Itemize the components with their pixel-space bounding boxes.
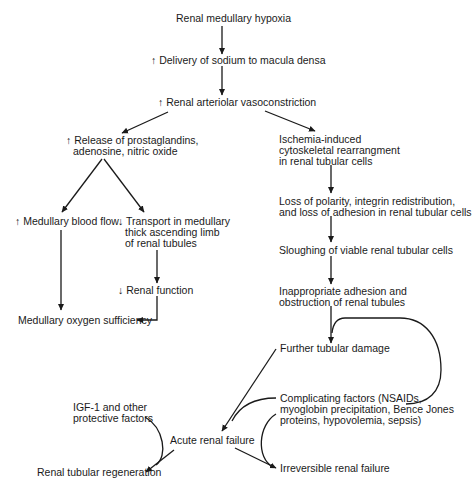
- node-medullary-blood-flow: ↑ Medullary blood flow: [15, 216, 119, 227]
- node-further-tubular-damage: Further tubular damage: [280, 343, 390, 354]
- node-complicating-factors: Complicating factors (NSAIDs, myoglobin …: [280, 393, 454, 426]
- arrow-further-damage-to-acute: [222, 349, 276, 431]
- node-text-line: Renal medullary hypoxia: [176, 13, 291, 24]
- node-text-line: ↑ Medullary blood flow: [15, 216, 119, 227]
- arrow-vasoconstriction-to-ischemia: [265, 111, 315, 131]
- node-text-line: of renal tubules: [118, 238, 230, 249]
- node-renal-function: ↓ Renal function: [118, 285, 193, 296]
- node-text-line: Acute renal failure: [170, 435, 255, 446]
- node-text-line: Renal tubular regeneration: [37, 467, 161, 478]
- node-text-line: Irreversible renal failure: [280, 463, 390, 474]
- arrow-prostaglandins-to-transport: [104, 159, 144, 212]
- node-text-line: ↑ Renal arteriolar vasoconstriction: [158, 97, 316, 108]
- node-text-line: Medullary oxygen sufficiency: [18, 315, 152, 326]
- node-medullary-oxygen-sufficiency: Medullary oxygen sufficiency: [18, 315, 152, 326]
- arrow-igf-to-regeneration: [145, 417, 163, 465]
- node-igf1-protective-factors: IGF-1 and other protective factors: [73, 402, 153, 424]
- arrow-complicating-to-irreversible: [261, 414, 276, 467]
- node-acute-renal-failure: Acute renal failure: [170, 435, 255, 446]
- node-transport-thick-ascending-limb: ↓ Transport in medullary thick ascending…: [118, 216, 230, 249]
- node-text-line: protective factors: [73, 413, 153, 424]
- node-text-line: ↑ Delivery of sodium to macula densa: [151, 55, 326, 66]
- node-text-line: in renal tubular cells: [279, 156, 400, 167]
- node-arteriolar-vasoconstriction: ↑ Renal arteriolar vasoconstriction: [158, 97, 316, 108]
- node-inappropriate-adhesion: Inappropriate adhesion and obstruction o…: [279, 286, 407, 308]
- node-sodium-delivery: ↑ Delivery of sodium to macula densa: [151, 55, 326, 66]
- node-ischemia-cytoskeletal: Ischemia-induced cytoskeletal rearrangme…: [279, 134, 400, 167]
- node-text-line: Further tubular damage: [280, 343, 390, 354]
- node-sloughing: Sloughing of viable renal tubular cells: [279, 245, 453, 256]
- node-renal-tubular-regeneration: Renal tubular regeneration: [37, 467, 161, 478]
- node-loss-of-polarity: Loss of polarity, integrin redistributio…: [279, 196, 472, 218]
- arrow-prostaglandins-to-blood-flow: [62, 159, 102, 212]
- arrow-acute-to-irreversible: [235, 448, 276, 468]
- node-text-line: adenosine, nitric oxide: [66, 146, 199, 157]
- node-text-line: and loss of adhesion in renal tubular ce…: [279, 207, 472, 218]
- node-text-line: proteins, hypovolemia, sepsis): [280, 415, 454, 426]
- node-irreversible-renal-failure: Irreversible renal failure: [280, 463, 390, 474]
- arrow-complicating-to-acute: [232, 398, 276, 421]
- node-release-prostaglandins: ↑ Release of prostaglandins, adenosine, …: [66, 135, 199, 157]
- node-renal-medullary-hypoxia: Renal medullary hypoxia: [176, 13, 291, 24]
- node-text-line: obstruction of renal tubules: [279, 297, 407, 308]
- node-text-line: Sloughing of viable renal tubular cells: [279, 245, 453, 256]
- node-text-line: ↓ Renal function: [118, 285, 193, 296]
- arrow-vasoconstriction-to-prostaglandins: [122, 112, 168, 133]
